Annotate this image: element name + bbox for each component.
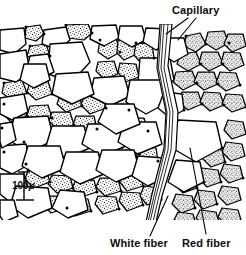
scale-bar-label: 100μ — [12, 181, 35, 191]
muscle-tissue-drawing — [0, 0, 246, 255]
tissue-mosaic — [0, 24, 246, 229]
scale-bar-unit: μ — [29, 180, 35, 191]
label-red-fiber: Red fiber — [182, 238, 231, 249]
scale-bar-value: 100 — [12, 180, 29, 191]
muscle-cross-section-figure: Capillary White fiber Red fiber 100μ — [0, 0, 246, 255]
label-capillary: Capillary — [172, 5, 219, 16]
label-white-fiber: White fiber — [110, 238, 168, 249]
